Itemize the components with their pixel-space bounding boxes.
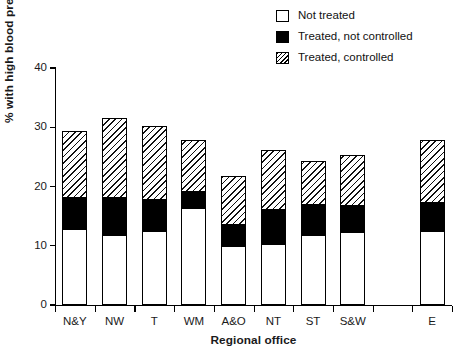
legend-item-treated-controlled: Treated, controlled (276, 48, 456, 67)
bar-wm (181, 140, 206, 305)
bar-nw (102, 118, 127, 305)
x-axis-tick-label: ST (306, 315, 321, 327)
bar-segment-not-treated (62, 229, 87, 305)
bar-segment-treated-controlled (261, 150, 286, 209)
bar-segment-treated-not-controlled (181, 192, 206, 209)
bar-segment-treated-controlled (301, 161, 326, 205)
x-axis-title: Regional office (55, 333, 452, 347)
bar-segment-treated-controlled (102, 118, 127, 198)
x-axis-tick (174, 306, 175, 312)
x-axis-tick (134, 306, 135, 312)
x-axis-tick-label: N&Y (63, 315, 87, 327)
x-axis-tick (214, 306, 215, 312)
x-axis-tick (452, 306, 453, 312)
bar-segment-not-treated (301, 235, 326, 305)
bar-segment-treated-not-controlled (420, 203, 445, 231)
bar-t (142, 126, 167, 305)
x-axis-tick (55, 306, 56, 312)
bar-segment-treated-not-controlled (62, 198, 87, 229)
bar-segment-not-treated (420, 231, 445, 305)
y-axis-tick (50, 67, 55, 68)
y-axis-tick-label: 40 (17, 62, 47, 73)
bar-segment-treated-controlled (62, 131, 87, 197)
bar-segment-not-treated (181, 208, 206, 305)
bar-sw (340, 155, 365, 305)
bar-segment-not-treated (261, 244, 286, 305)
x-axis-tick (293, 306, 294, 312)
x-axis-tick-label: T (151, 315, 158, 327)
x-axis-tick (254, 306, 255, 312)
bar-segment-treated-not-controlled (102, 198, 127, 235)
bar-segment-treated-not-controlled (221, 225, 246, 246)
x-axis-tick (333, 306, 334, 312)
y-axis-tick (50, 245, 55, 246)
hatched-square-swatch-icon (276, 52, 289, 64)
bar-segment-not-treated (142, 231, 167, 305)
bar-ny (62, 131, 87, 305)
filled-square-swatch-icon (276, 31, 289, 43)
legend-label-treated-controlled: Treated, controlled (298, 51, 393, 64)
x-axis-tick-label: S&W (340, 315, 366, 327)
bar-segment-treated-controlled (221, 176, 246, 225)
legend-item-not-treated: Not treated (276, 6, 456, 25)
y-axis-tick-label: 30 (17, 121, 47, 132)
bar-segment-treated-controlled (420, 140, 445, 203)
bar-segment-not-treated (340, 232, 365, 305)
y-axis-tick-label: 0 (17, 299, 47, 310)
legend-label-not-treated: Not treated (298, 9, 355, 22)
bar-st (301, 161, 326, 305)
legend-item-treated-not-controlled: Treated, not controlled (276, 27, 456, 46)
legend-label-treated-not-controlled: Treated, not controlled (298, 30, 413, 43)
x-axis-tick-label: WM (184, 315, 204, 327)
bar-segment-treated-controlled (340, 155, 365, 206)
chart-legend: Not treated Treated, not controlled Trea… (276, 6, 456, 69)
x-axis-tick-label: A&O (221, 315, 245, 327)
x-axis-tick (95, 306, 96, 312)
y-axis-line (55, 67, 56, 306)
bar-segment-treated-not-controlled (261, 210, 286, 244)
x-axis-tick (412, 306, 413, 312)
open-square-swatch-icon (276, 10, 289, 22)
stacked-bar-chart: Not treated Treated, not controlled Trea… (0, 0, 458, 359)
y-axis-tick (50, 186, 55, 187)
x-axis-tick (373, 306, 374, 312)
y-axis-title: % with high blood pressure (2, 0, 16, 123)
y-axis-tick (50, 127, 55, 128)
bar-segment-treated-not-controlled (142, 200, 167, 231)
bar-e (420, 140, 445, 305)
x-axis-tick-label: NW (105, 315, 124, 327)
x-axis-tick-label: NT (266, 315, 281, 327)
bar-segment-not-treated (102, 235, 127, 306)
bar-segment-treated-controlled (142, 126, 167, 199)
plot-area: 010203040 N&YNWTWMA&ONTSTS&WE (55, 68, 452, 305)
bar-segment-treated-not-controlled (340, 206, 365, 232)
y-axis-tick-label: 10 (17, 240, 47, 251)
bar-ao (221, 176, 246, 305)
bar-segment-treated-not-controlled (301, 205, 326, 235)
bar-nt (261, 150, 286, 305)
y-axis-tick-label: 20 (17, 181, 47, 192)
bar-segment-treated-controlled (181, 140, 206, 192)
bar-segment-not-treated (221, 246, 246, 305)
x-axis-tick-label: E (428, 315, 436, 327)
